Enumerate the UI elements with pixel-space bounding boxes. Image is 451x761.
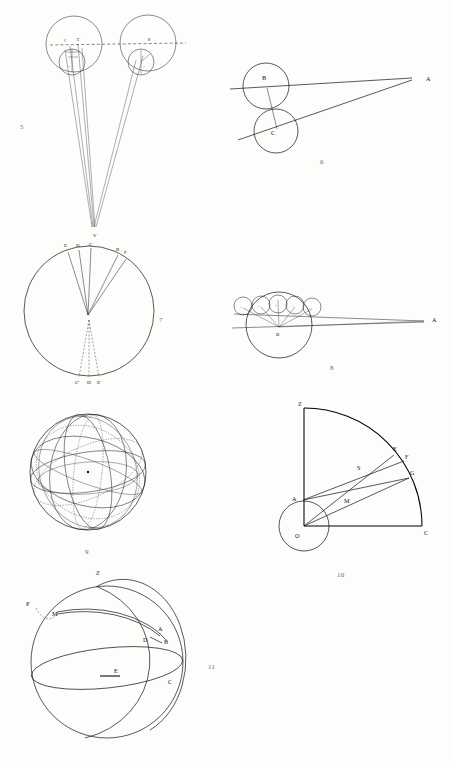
figures-canvas: C E' B D D A B C A [0, 0, 451, 761]
figure-10-label-M: M [344, 497, 350, 504]
figure-5-label-A: A [90, 222, 92, 225]
figure-7-chord-E [68, 252, 88, 315]
figure-10-line-A-to-F [303, 461, 404, 500]
figure-7: V E D C B F C' D' E' [24, 233, 154, 385]
figure-8-label-A: A [432, 316, 437, 323]
figure-8-label-F: F [292, 305, 294, 308]
figure-7-label-V: V [93, 233, 97, 238]
figure-9: P Q E W [19, 401, 157, 543]
figure-11-sphere-outline [31, 586, 183, 738]
figure-11-meridian-arc [96, 579, 186, 730]
figure-10-label-E: E [393, 445, 397, 452]
figure-number-5: 5 [20, 123, 24, 131]
figure-11-vertical-circle-arc [85, 587, 150, 738]
figure-8-radius-F [279, 307, 295, 327]
figure-7-chord-F [88, 259, 126, 315]
figure-10-line-A-to-G [303, 478, 409, 500]
figure-8-radius-G [261, 307, 279, 327]
figure-7-chord-D [79, 250, 88, 315]
figure-7-label-Dprime: D' [87, 380, 92, 385]
figure-9-great-circle-7 [37, 459, 139, 498]
figure-5-label-B: B [148, 38, 151, 42]
figure-10-label-Z: Z [298, 400, 302, 407]
diagram-page: C E' B D D A B C A [0, 0, 451, 761]
figure-5-label-D-right: D [143, 65, 145, 68]
figure-11: Z P M A B D C E [26, 569, 186, 738]
figure-11-label-P: P [26, 600, 30, 607]
figure-7-label-E: E [64, 243, 67, 248]
figure-5-sight-line-3 [78, 44, 94, 227]
figure-10-label-G: G [410, 469, 415, 476]
figure-11-label-B: B [164, 638, 168, 645]
figure-8-small-circle-G [252, 296, 270, 314]
figure-6-line-C-to-A [238, 80, 412, 140]
figure-9-centre-point [87, 471, 89, 473]
figure-7-chord-Cprime [79, 320, 89, 377]
figure-5-right-deferent [120, 15, 176, 71]
figure-number-10: 10 [337, 571, 344, 579]
figure-7-chord-B [88, 255, 118, 315]
figure-number-7: 7 [159, 316, 163, 324]
figure-7-label-D: D [76, 243, 80, 248]
figure-7-label-Cprime: C' [75, 380, 79, 385]
figure-8-label-H: H [240, 306, 242, 309]
figure-6-label-B: B [262, 74, 266, 81]
figure-6-line-B-to-A [230, 78, 412, 89]
figure-5-label-Eprime: E' [77, 38, 80, 42]
figure-10-label-O: O [295, 532, 300, 539]
figure-6-circle-C [254, 109, 298, 153]
figure-8-small-circle-E [303, 298, 321, 316]
figure-8: H G D F E B A [232, 292, 437, 358]
figure-7-chord-Eprime [89, 320, 99, 377]
figure-8-small-circle-F [286, 296, 304, 314]
figure-10-label-C: C [424, 529, 428, 536]
figure-11-parallel-arc-upper [57, 609, 166, 640]
figure-11-label-Z: Z [96, 569, 100, 576]
figure-number-8: 8 [330, 364, 334, 372]
figure-7-chord-C [88, 248, 91, 315]
figure-10-line-O-to-G [304, 478, 409, 526]
figure-6-label-A: A [426, 75, 431, 82]
figure-5-axis-line [50, 43, 186, 45]
figure-8-label-G: G [258, 305, 260, 308]
figure-8-line-B-to-A [279, 321, 424, 327]
figure-9-label-pole-bottom: Q [84, 528, 86, 531]
figure-5: C E' B D D A [46, 15, 186, 227]
figure-11-segment-D-B [150, 637, 162, 643]
figure-8-radius-H [243, 308, 279, 327]
figure-10-label-F: F [405, 453, 409, 460]
figure-11-label-E: E [114, 667, 118, 674]
figure-9-label-east: E [143, 472, 145, 475]
figure-6-label-C: C [271, 129, 275, 136]
figure-11-label-D: D [143, 636, 148, 643]
figure-7-label-Eprime: E' [97, 380, 101, 385]
figure-8-radius-E [279, 309, 312, 327]
figure-number-9: 9 [85, 548, 89, 556]
figure-8-label-D: D [275, 304, 277, 307]
figure-7-label-B: B [116, 247, 120, 252]
figure-11-horizon-circle [29, 640, 184, 696]
figure-10: Z E F G S A M O C [279, 400, 428, 551]
figure-7-label-F: F [124, 250, 127, 255]
figure-11-label-A: A [158, 625, 163, 632]
figure-6: B C A [230, 63, 431, 153]
figure-6-centre-link [267, 88, 277, 129]
figure-5-sight-line-1 [65, 50, 92, 227]
figure-8-sight-line-upper [234, 314, 424, 321]
figure-5-sight-line-6 [94, 60, 136, 227]
figure-8-label-B: B [276, 332, 280, 337]
figure-8-small-circle-H [234, 297, 252, 315]
figure-5-sight-line-4 [82, 48, 95, 227]
figure-5-label-D-left: D [68, 65, 70, 68]
figure-5-sight-line-2 [70, 46, 93, 227]
figure-8-radius-D [278, 300, 279, 327]
figure-11-label-C: C [168, 678, 172, 685]
figure-number-11: 11 [208, 663, 215, 671]
figure-5-sight-line-5 [96, 56, 143, 227]
figure-5-left-deferent [46, 16, 102, 72]
figure-number-6: 6 [320, 158, 324, 166]
figure-10-label-A: A [292, 495, 297, 502]
figure-10-label-S: S [357, 464, 361, 471]
figure-5-label-C: C [64, 39, 67, 43]
figure-11-label-M: M [52, 610, 58, 617]
